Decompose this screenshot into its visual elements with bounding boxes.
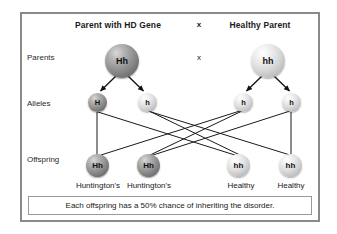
column-header-left: Parent with HD Gene — [58, 20, 178, 30]
offspring-genotype-label: hh — [234, 161, 244, 170]
diagram-canvas: Parent with HD Gene x Healthy Parent Par… — [0, 0, 337, 234]
row-label-alleles: Alleles — [27, 99, 51, 108]
allele-node-1: H — [88, 93, 107, 112]
offspring-outcome-2: Huntington's — [113, 181, 185, 190]
offspring-node-3: hh — [227, 154, 250, 177]
row-label-offspring: Offspring — [27, 155, 59, 164]
allele-label: H — [95, 98, 100, 107]
column-header-right: Healthy Parent — [212, 20, 308, 30]
diagram-frame — [20, 12, 320, 222]
parent-genotype-label: hh — [263, 56, 274, 66]
offspring-node-1: Hh — [86, 154, 109, 177]
allele-node-4: h — [282, 93, 301, 112]
cross-symbol-parents-row: x — [192, 53, 206, 62]
offspring-node-2: Hh — [137, 154, 160, 177]
parent-genotype-label: Hh — [116, 56, 128, 66]
offspring-genotype-label: Hh — [92, 161, 103, 170]
allele-label: h — [145, 98, 150, 107]
allele-node-3: h — [234, 93, 253, 112]
cross-symbol-header: x — [192, 20, 206, 29]
parent-node-healthy: hh — [251, 44, 285, 78]
allele-node-2: h — [138, 93, 157, 112]
summary-caption-box: Each offspring has a 50% chance of inher… — [28, 196, 312, 215]
summary-caption-text: Each offspring has a 50% chance of inher… — [66, 201, 275, 210]
row-label-parents: Parents — [27, 53, 55, 62]
offspring-outcome-4: Healthy — [260, 181, 322, 190]
allele-label: h — [289, 98, 294, 107]
offspring-genotype-label: Hh — [143, 161, 154, 170]
parent-node-affected: Hh — [105, 44, 139, 78]
offspring-node-4: hh — [279, 154, 302, 177]
offspring-genotype-label: hh — [286, 161, 296, 170]
allele-label: h — [241, 98, 246, 107]
